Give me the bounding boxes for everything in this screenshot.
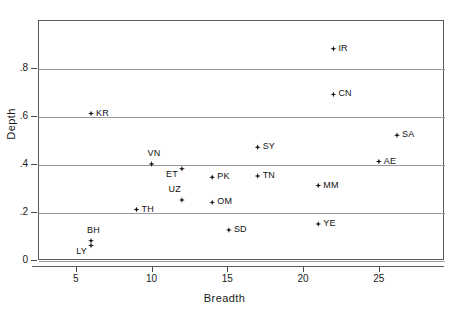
x-tick-mark [227, 267, 228, 272]
x-tick-mark [76, 267, 77, 272]
y-tick-mark [31, 164, 37, 165]
data-point-label: CN [338, 89, 351, 98]
diamond-marker-icon [330, 91, 336, 97]
diamond-marker-icon [149, 161, 155, 167]
y-tick-mark [31, 116, 37, 117]
data-point-label: KR [96, 109, 109, 118]
x-tick-label: 25 [364, 273, 394, 284]
diamond-marker-icon [88, 243, 94, 249]
diamond-marker-icon [226, 227, 232, 233]
diamond-marker-icon [179, 197, 185, 203]
data-point-label: BH [87, 226, 100, 235]
data-point-label: AE [384, 157, 396, 166]
data-point-label: VN [148, 149, 161, 158]
diamond-marker-icon [88, 111, 94, 117]
data-point-label: SY [263, 142, 275, 151]
diamond-marker-icon [315, 183, 321, 189]
diamond-marker-icon [330, 46, 336, 52]
data-point-label: SD [234, 225, 247, 234]
x-axis-line [32, 266, 444, 267]
x-tick-label: 5 [61, 273, 91, 284]
x-axis: Breadth 510152025 [0, 260, 449, 319]
y-tick-label: .2 [20, 207, 28, 217]
y-axis-title: Depth [5, 94, 17, 154]
diamond-marker-icon [255, 173, 261, 179]
y-tick-label: .6 [20, 111, 28, 121]
data-point-label: PK [217, 172, 229, 181]
data-point-label: ET [166, 170, 178, 179]
x-tick-mark [303, 267, 304, 272]
diamond-marker-icon [315, 221, 321, 227]
diamond-marker-icon [133, 207, 139, 213]
y-tick-label: .8 [20, 63, 28, 73]
scatter-chart: Depth 0.2.4.6.8 IRCNKRSASYVNAEETTNPKMMUZ… [0, 0, 449, 319]
y-tick-label: .4 [20, 159, 28, 169]
data-point-label: OM [217, 197, 232, 206]
data-point-label: YE [323, 219, 335, 228]
y-tick-mark [31, 68, 37, 69]
data-point-label: LY [76, 247, 87, 256]
data-point-label: TN [263, 171, 275, 180]
diamond-marker-icon [209, 199, 215, 205]
diamond-marker-icon [394, 132, 400, 138]
data-point-label: MM [323, 181, 338, 190]
diamond-marker-icon [179, 166, 185, 172]
x-tick-mark [379, 267, 380, 272]
x-axis-title: Breadth [0, 292, 449, 304]
x-tick-label: 10 [137, 273, 167, 284]
y-tick-mark [31, 212, 37, 213]
plot-area: IRCNKRSASYVNAEETTNPKMMUZOMTHYESDBHLY [38, 20, 444, 260]
x-tick-mark [152, 267, 153, 272]
diamond-marker-icon [376, 159, 382, 165]
x-tick-label: 15 [212, 273, 242, 284]
data-point-label: IR [338, 44, 347, 53]
diamond-marker-icon [209, 174, 215, 180]
x-tick-label: 20 [288, 273, 318, 284]
data-point-label: SA [402, 130, 414, 139]
diamond-marker-icon [255, 144, 261, 150]
data-point-label: UZ [169, 185, 181, 194]
data-point-label: TH [141, 205, 153, 214]
